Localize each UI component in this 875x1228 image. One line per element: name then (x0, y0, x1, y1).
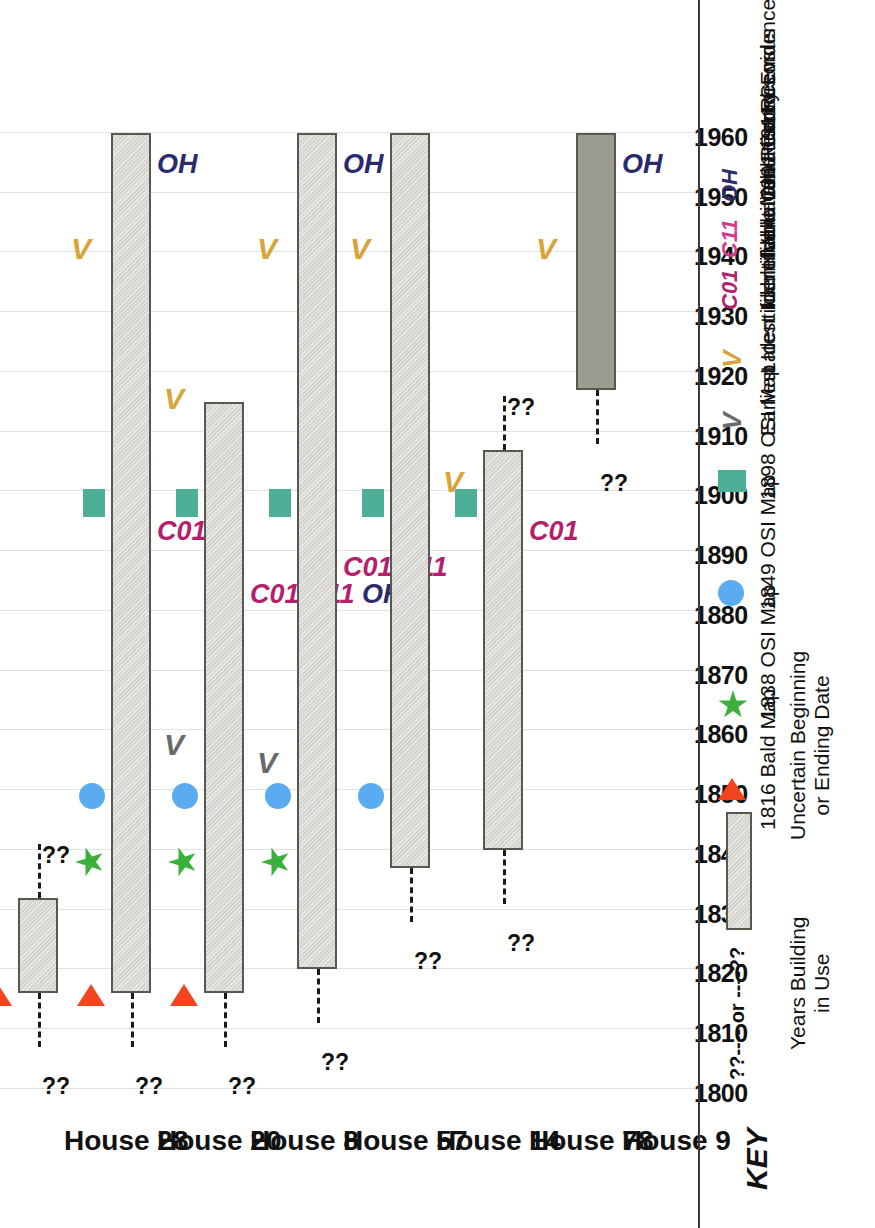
valuation-mark-gold: V (164, 384, 184, 414)
uncertain-start-dash (596, 390, 599, 444)
square-marker-icon (176, 489, 198, 517)
uncertain-end-label: ?? (42, 842, 70, 869)
valuation-mark-gold: V (443, 467, 463, 497)
uncertain-start-label: ?? (414, 948, 442, 975)
valuation-mark-gold: V (350, 234, 370, 264)
key-title: KEY (740, 1128, 774, 1190)
source-label: OH (622, 151, 663, 178)
source-label: OH (157, 151, 198, 178)
uncertain-start-dash (410, 868, 413, 922)
key-evidence-glyph: C11 (718, 219, 743, 258)
square-marker-icon (269, 489, 291, 517)
valuation-mark-gray: V (257, 748, 277, 778)
bar-house-20[interactable] (111, 133, 151, 993)
chart-row: House 78????VC01 (483, 79, 576, 1149)
key-evidence-label: Oral History Evidence (756, 0, 780, 202)
chart-row: House 14??V (390, 79, 483, 1149)
bar-house-14[interactable] (390, 133, 430, 868)
valuation-mark-gold: V (257, 234, 277, 264)
bar-house-78[interactable] (483, 450, 523, 850)
valuation-mark-gold: V (71, 234, 91, 264)
uncertain-start-label: ?? (42, 1073, 70, 1100)
triangle-marker-icon (0, 984, 12, 1006)
key-evidence-glyph: V (718, 413, 747, 430)
plot-area: 1800181018201830184018501860187018801890… (0, 79, 700, 1149)
source-label: C01 (157, 518, 207, 545)
key-panel: KEYYears Buildingin Use??---- or ----??U… (698, 0, 875, 1228)
bar-house-9[interactable] (576, 133, 616, 390)
key-contents: KEYYears Buildingin Use??---- or ----??U… (700, 0, 875, 1228)
uncertain-end-dash (503, 396, 506, 450)
key-triangle-icon (718, 778, 746, 800)
key-bar-caption: Years Buildingin Use (786, 917, 833, 1051)
square-marker-icon (83, 489, 105, 517)
key-star-icon (718, 690, 748, 720)
bar-house-8[interactable] (204, 402, 244, 994)
bar-house-28[interactable] (18, 898, 58, 994)
source-label: OH (343, 151, 384, 178)
uncertain-start-label: ?? (228, 1073, 256, 1100)
key-bar-swatch (726, 812, 752, 930)
chart-row: House 9??VOH (576, 79, 669, 1149)
valuation-mark-gold: V (536, 234, 556, 264)
uncertain-end-label: ?? (507, 394, 535, 421)
valuation-mark-gray: V (164, 730, 184, 760)
bar-house-57[interactable] (297, 133, 337, 970)
key-dash-caption: Uncertain Beginningor Ending Date (786, 651, 833, 840)
uncertain-start-dash (224, 993, 227, 1047)
chart-row: House 8??VVC01 C11 OH (204, 79, 297, 1149)
key-square-icon (718, 470, 746, 492)
chart-root: 1800181018201830184018501860187018801890… (0, 0, 875, 1228)
uncertain-end-dash (38, 844, 41, 898)
gantt-chart-stage: 1800181018201830184018501860187018801890… (0, 79, 700, 1149)
triangle-marker-icon (77, 984, 105, 1006)
uncertain-start-dash (131, 993, 134, 1047)
uncertain-start-label: ?? (135, 1073, 163, 1100)
square-marker-icon (362, 489, 384, 517)
key-dash-sample: ??---- or ----?? (726, 947, 749, 1080)
chart-row: House 57??VVC01 C11OH (297, 79, 390, 1149)
source-label: C01 (529, 518, 579, 545)
triangle-marker-icon (170, 984, 198, 1006)
key-evidence-glyph: OH (718, 169, 743, 202)
uncertain-start-label: ?? (321, 1050, 349, 1077)
uncertain-start-dash (38, 993, 41, 1047)
uncertain-start-label: ?? (507, 930, 535, 957)
key-circle-icon (718, 580, 744, 606)
uncertain-start-dash (503, 850, 506, 904)
uncertain-start-label: ?? (600, 470, 628, 497)
uncertain-start-dash (317, 970, 320, 1024)
key-evidence-glyph: V (718, 351, 747, 368)
key-evidence-glyph: C01 (718, 270, 743, 310)
